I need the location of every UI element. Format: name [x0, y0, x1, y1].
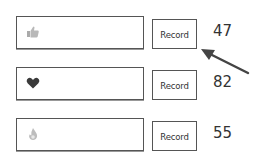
reaction-row-heart: Record 82 [0, 67, 264, 107]
reaction-field[interactable] [16, 16, 144, 49]
reaction-row-thumbs-up: Record 47 [0, 16, 264, 56]
record-button-label: Record [160, 131, 188, 142]
record-button-label: Record [160, 29, 188, 40]
reaction-count: 55 [213, 124, 232, 142]
reaction-row-flame: Record 55 [0, 118, 264, 158]
record-button[interactable]: Record [152, 121, 197, 151]
reaction-count: 47 [213, 22, 232, 40]
reaction-field[interactable] [16, 67, 144, 100]
record-button[interactable]: Record [152, 19, 197, 49]
reaction-field[interactable] [16, 118, 144, 151]
record-button-label: Record [160, 80, 188, 91]
thumbs-up-icon [26, 25, 40, 39]
heart-icon [26, 76, 40, 90]
record-button[interactable]: Record [152, 70, 197, 100]
flame-icon [26, 127, 40, 141]
reaction-count: 82 [213, 73, 232, 91]
